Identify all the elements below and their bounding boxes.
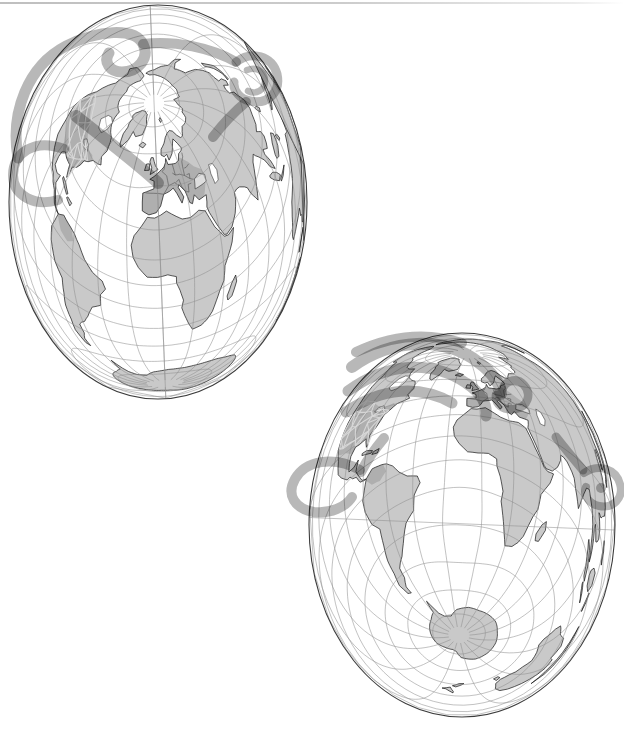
landmass xyxy=(51,214,105,346)
landmasses xyxy=(51,42,304,390)
route-node-dot xyxy=(596,483,606,493)
network-edge xyxy=(74,159,82,160)
route-ribbon xyxy=(143,43,236,62)
landmass xyxy=(495,626,563,691)
landmass xyxy=(120,110,147,147)
landmass xyxy=(427,601,498,659)
globe-upper-left-north-view xyxy=(9,5,307,399)
landmass xyxy=(584,539,590,581)
landmass xyxy=(67,197,72,206)
landmass xyxy=(131,210,233,329)
two-globe-map-figure xyxy=(0,0,624,730)
landmass xyxy=(442,687,453,693)
globe-lower-right-south-view xyxy=(291,333,620,717)
figure-page xyxy=(0,0,624,730)
landmass xyxy=(580,582,584,603)
landmass xyxy=(494,677,500,681)
route-ribbon xyxy=(291,461,360,512)
network-edge xyxy=(355,427,356,440)
landmass xyxy=(587,568,595,592)
landmass xyxy=(281,165,284,181)
